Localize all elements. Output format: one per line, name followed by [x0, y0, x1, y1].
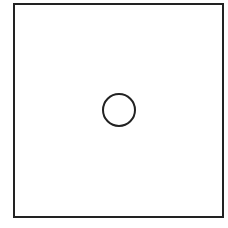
square-frame: [14, 4, 223, 217]
center-circle: [103, 94, 135, 126]
diagram-canvas: [0, 0, 228, 228]
